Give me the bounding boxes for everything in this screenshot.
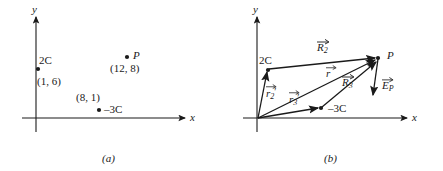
vector-label-r: r xyxy=(326,68,330,79)
vector-label-r3-prime: r3′ xyxy=(289,93,299,107)
dot-2c-b xyxy=(266,68,270,72)
vector-arrow-accent xyxy=(326,64,328,69)
dot-minus-3c xyxy=(97,108,101,112)
dot-p xyxy=(125,55,129,59)
x-axis-label-b: x xyxy=(412,112,417,123)
panel-a-axes xyxy=(0,0,222,171)
vector-subscript-R2: 2 xyxy=(324,46,328,55)
vector-label-EP: EP xyxy=(382,80,394,93)
point-label-p-b: P xyxy=(387,50,394,61)
dot-2c xyxy=(36,67,40,71)
vector-arrow-accent xyxy=(342,73,351,78)
electric-field-figure: y x 2C (1, 6) (8, 1) –3C P (12, 8) (a) xyxy=(0,0,443,171)
vector-arrow-accent xyxy=(289,89,297,94)
panel-b-axes-vectors xyxy=(221,0,443,171)
vector-label-R2: R2 xyxy=(317,42,328,55)
vector-subscript-EP: P xyxy=(389,84,394,93)
charge-label-2c-a: 2C xyxy=(39,55,52,66)
point-label-p-a: P xyxy=(133,50,140,61)
panel-a: y x 2C (1, 6) (8, 1) –3C P (12, 8) (a) xyxy=(0,0,222,171)
vector-label-r2-prime: r2′ xyxy=(266,87,276,101)
x-axis-label-a: x xyxy=(190,112,195,123)
vector-subscript-R3: 3 xyxy=(349,81,353,90)
coord-label-p-a: (12, 8) xyxy=(110,63,139,74)
coord-label-2c-a: (1, 6) xyxy=(37,76,61,87)
charge-label-minus-3c-b: –3C xyxy=(328,103,346,114)
dot-minus-3c-b xyxy=(319,106,323,110)
panel-caption-a: (a) xyxy=(102,152,115,164)
y-axis-label-b: y xyxy=(253,4,258,15)
vector-arrow-accent xyxy=(266,83,274,88)
coord-label-minus-3c-a: (8, 1) xyxy=(76,92,100,103)
panel-b: y x 2C –3C P R2 r R3 EP xyxy=(221,0,443,171)
y-axis-label-a: y xyxy=(32,4,37,15)
vector-label-R3: R3 xyxy=(342,77,353,90)
dot-p-b xyxy=(376,56,380,60)
vector-arrow-accent xyxy=(317,38,326,43)
vector-arrow-accent xyxy=(382,76,392,81)
charge-label-minus-3c-a: –3C xyxy=(104,104,122,115)
panel-caption-b: (b) xyxy=(324,152,337,164)
charge-label-2c-b: 2C xyxy=(259,55,272,66)
